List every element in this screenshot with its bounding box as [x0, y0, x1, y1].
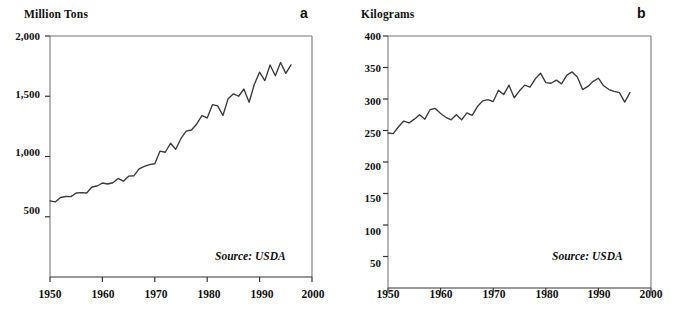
data-line [388, 72, 630, 134]
axes-group [45, 36, 312, 282]
data-line [50, 63, 291, 202]
plot-area-b [337, 0, 673, 315]
chart-panel-a: Million Tons a 2,000 1,500 1,000 500 195… [0, 0, 336, 315]
chart-panel-b: Kilograms b 400 350 300 250 200 150 100 … [337, 0, 673, 315]
plot-area-a [0, 0, 336, 315]
axes-group [383, 36, 651, 293]
figure-container: Million Tons a 2,000 1,500 1,000 500 195… [0, 0, 673, 315]
